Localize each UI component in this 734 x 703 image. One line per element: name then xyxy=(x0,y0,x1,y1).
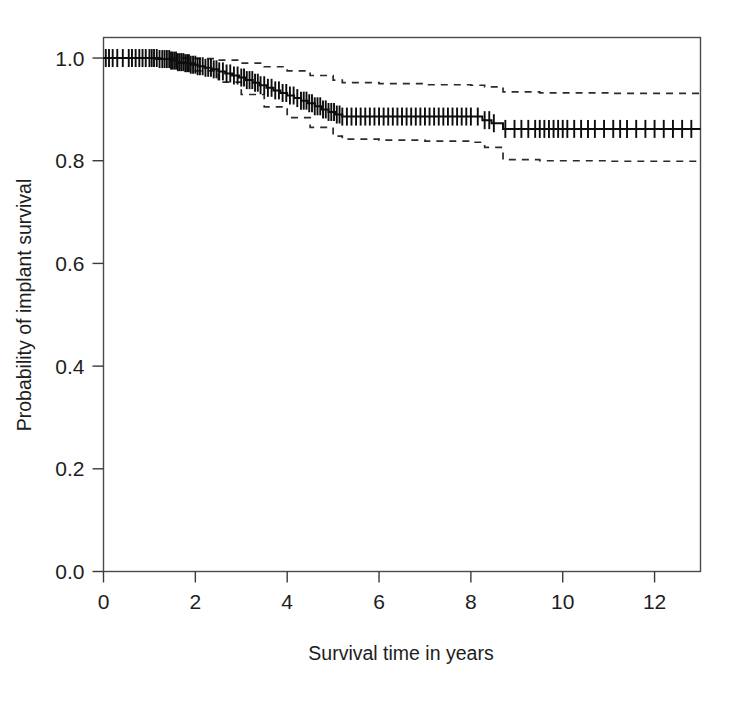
y-tick-label: 0.0 xyxy=(55,560,84,583)
x-tick-label: 2 xyxy=(190,590,202,613)
x-tick-label: 12 xyxy=(643,590,666,613)
x-tick-label: 4 xyxy=(281,590,293,613)
y-tick-label: 0.8 xyxy=(55,149,84,172)
plot-background xyxy=(0,0,734,703)
y-tick-label: 0.6 xyxy=(55,252,84,275)
x-tick-label: 0 xyxy=(98,590,110,613)
x-tick-label: 6 xyxy=(373,590,385,613)
x-axis-title: Survival time in years xyxy=(308,642,494,664)
y-tick-label: 0.4 xyxy=(55,355,85,378)
survival-chart: 0.00.20.40.60.81.0 024681012 Survival ti… xyxy=(0,0,734,703)
y-tick-label: 1.0 xyxy=(55,47,84,70)
y-axis-title: Probability of implant survival xyxy=(13,179,35,432)
x-tick-label: 10 xyxy=(551,590,574,613)
y-tick-label: 0.2 xyxy=(55,457,84,480)
kaplan-meier-plot: 0.00.20.40.60.81.0 024681012 Survival ti… xyxy=(0,0,734,703)
x-tick-label: 8 xyxy=(465,590,477,613)
